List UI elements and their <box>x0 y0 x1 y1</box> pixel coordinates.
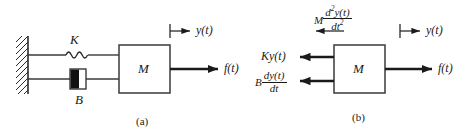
spring-element <box>28 52 119 58</box>
dashpot-piston <box>71 70 79 89</box>
spring-force-label: Ky(t) <box>261 50 286 62</box>
displacement-label-a: y(t) <box>196 24 213 36</box>
inertia-coefficient: M <box>314 14 323 26</box>
inertia-denominator-exponent: 2 <box>340 18 344 27</box>
displacement-label-b: y(t) <box>426 24 443 36</box>
inertia-force-label: Md2y(t)dt2 <box>314 5 352 32</box>
caption-b: (b) <box>352 112 365 123</box>
displacement-indicator-b <box>400 24 420 38</box>
applied-force-label-b: f(t) <box>438 62 453 74</box>
damper-coefficient: B <box>255 76 262 88</box>
spring-coil <box>66 52 88 58</box>
inertia-denominator: dt2 <box>323 19 352 32</box>
damper-numerator: dy(t) <box>262 70 287 83</box>
inertia-fraction: d2y(t)dt2 <box>323 5 352 32</box>
displacement-indicator-a <box>170 24 190 38</box>
mass-label-b: M <box>353 62 364 75</box>
mass-spring-damper-figure: K B M y(t) f(t) (a) M y(t) f(t) Md2y(t)d… <box>0 0 472 136</box>
damper-force-label: Bdy(t)dt <box>255 70 287 94</box>
fixed-wall <box>10 30 32 100</box>
damper-denominator: dt <box>262 83 287 95</box>
applied-force-label-a: f(t) <box>224 62 239 74</box>
damper-fraction: dy(t)dt <box>262 70 287 94</box>
spring-constant-label: K <box>70 33 79 46</box>
inertia-numerator: d2y(t) <box>323 5 352 19</box>
damper-element <box>28 69 119 89</box>
damping-constant-label: B <box>75 93 83 106</box>
caption-a: (a) <box>136 116 148 127</box>
mass-label-a: M <box>138 62 149 75</box>
